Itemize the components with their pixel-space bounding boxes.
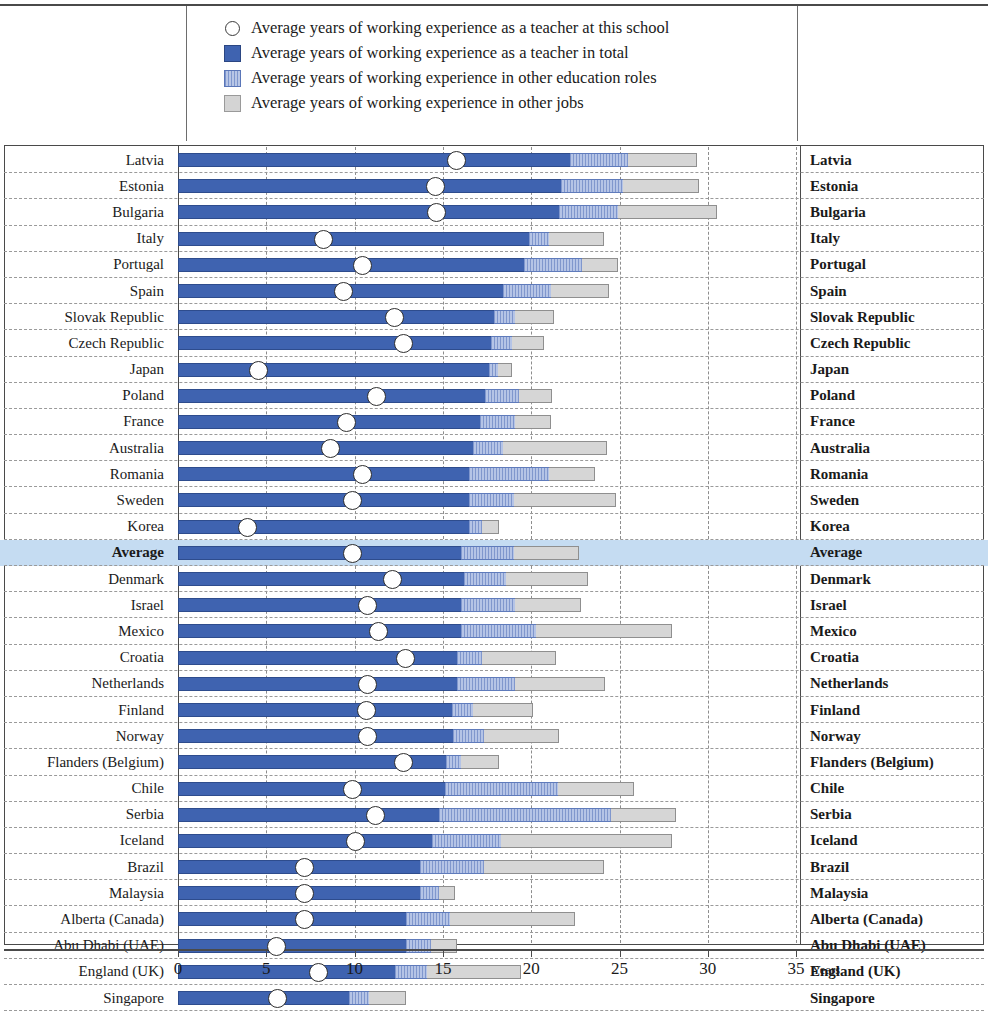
country-label-left: Poland <box>0 383 170 409</box>
marker-years-at-this-school <box>346 832 365 851</box>
bar-segment-other-jobs <box>484 729 560 743</box>
legend-item-label: Average years of working experience as a… <box>251 20 669 37</box>
bar-segment-other-jobs <box>536 624 672 638</box>
country-label-right: Portugal <box>810 252 866 278</box>
country-label-left: Flanders (Belgium) <box>0 749 170 775</box>
bar-segment-teacher-total <box>178 546 461 560</box>
country-label-left: Japan <box>0 357 170 383</box>
bar-segment-other-jobs <box>512 336 544 350</box>
axis-tick-label: 0 <box>174 959 183 979</box>
bar-area <box>178 461 800 487</box>
chart-row: KoreaKorea <box>0 514 988 540</box>
country-label-left: Mexico <box>0 618 170 644</box>
axis-tick <box>620 949 621 957</box>
country-label-right: Slovak Republic <box>810 304 915 330</box>
chart-row: ItalyItaly <box>0 226 988 252</box>
axis-tick <box>796 949 797 957</box>
bar-area <box>178 304 800 330</box>
bar-segment-other-education-roles <box>503 284 551 298</box>
legend-left-divider <box>186 6 187 141</box>
bar-segment-other-jobs <box>484 860 604 874</box>
legend-item-label: Average years of working experience in o… <box>251 70 657 87</box>
bar-segment-other-jobs <box>549 467 595 481</box>
bar-segment-teacher-total <box>178 232 529 246</box>
country-label-left: Sweden <box>0 487 170 513</box>
marker-years-at-this-school <box>385 308 404 327</box>
marker-years-at-this-school <box>366 806 385 825</box>
chart-row: PortugalPortugal <box>0 252 988 278</box>
bar-segment-other-education-roles <box>452 703 473 717</box>
country-label-right: Average <box>810 540 862 566</box>
country-label-right: Flanders (Belgium) <box>810 749 934 775</box>
country-label-left: Norway <box>0 723 170 749</box>
bar-segment-other-jobs <box>549 232 604 246</box>
country-label-right: Finland <box>810 697 860 723</box>
bar-segment-other-jobs <box>611 808 676 822</box>
bar-segment-teacher-total <box>178 520 469 534</box>
bar-segment-other-education-roles <box>469 493 513 507</box>
country-label-right: Spain <box>810 278 847 304</box>
bar-segment-teacher-total <box>178 598 461 612</box>
bar-segment-other-jobs <box>582 258 617 272</box>
bar-area <box>178 566 800 592</box>
marker-years-at-this-school <box>334 282 353 301</box>
x-axis-unit-label: Years <box>812 963 840 978</box>
bar-segment-other-education-roles <box>446 755 460 769</box>
legend-item-label: Average years of working experience in o… <box>251 95 584 112</box>
country-label-right: Japan <box>810 357 849 383</box>
bar-segment-teacher-total <box>178 729 453 743</box>
chart-row: IsraelIsrael <box>0 592 988 618</box>
chart-row: DenmarkDenmark <box>0 566 988 592</box>
marker-years-at-this-school <box>394 753 413 772</box>
chart-row: FranceFrance <box>0 409 988 435</box>
bar-segment-teacher-total <box>178 205 559 219</box>
bar-segment-other-jobs <box>558 782 634 796</box>
bar-segment-other-jobs <box>506 572 587 586</box>
bar-segment-other-education-roles <box>524 258 582 272</box>
country-label-left: Denmark <box>0 566 170 592</box>
chart-row: Slovak RepublicSlovak Republic <box>0 304 988 330</box>
country-label-right: Estonia <box>810 173 858 199</box>
country-label-right: Iceland <box>810 828 858 854</box>
bar-area <box>178 697 800 723</box>
country-label-right: Norway <box>810 723 861 749</box>
x-axis: 05101520253035 Years <box>0 945 988 981</box>
bar-segment-teacher-total <box>178 179 561 193</box>
country-label-left: Chile <box>0 776 170 802</box>
bar-segment-other-education-roles <box>491 336 512 350</box>
bar-area <box>178 749 800 775</box>
country-label-right: Brazil <box>810 854 849 880</box>
bar-segment-other-education-roles <box>561 179 623 193</box>
bar-segment-teacher-total <box>178 467 469 481</box>
bar-segment-other-jobs <box>628 153 697 167</box>
legend-item: Average years of working experience in o… <box>224 91 669 116</box>
bar-segment-other-education-roles <box>439 808 610 822</box>
country-label-right: Israel <box>810 592 847 618</box>
x-axis-line <box>4 949 984 951</box>
bar-area <box>178 383 800 409</box>
country-label-right: Netherlands <box>810 671 888 697</box>
country-label-right: Poland <box>810 383 855 409</box>
axis-tick <box>443 949 444 957</box>
legend-top-rule <box>0 4 988 6</box>
bar-segment-teacher-total <box>178 991 349 1005</box>
country-label-right: Singapore <box>810 985 875 1011</box>
chart-row: ChileChile <box>0 776 988 802</box>
bar-area <box>178 357 800 383</box>
marker-years-at-this-school <box>321 439 340 458</box>
chart-row: SwedenSweden <box>0 487 988 513</box>
country-label-left: Bulgaria <box>0 199 170 225</box>
bar-segment-other-jobs <box>461 755 500 769</box>
marker-years-at-this-school <box>343 491 362 510</box>
country-label-left: Croatia <box>0 645 170 671</box>
country-label-right: Chile <box>810 776 844 802</box>
bar-segment-other-jobs <box>514 493 616 507</box>
bar-segment-other-education-roles <box>461 598 516 612</box>
chart-row: Alberta (Canada)Alberta (Canada) <box>0 906 988 932</box>
bar-segment-teacher-total <box>178 415 480 429</box>
axis-tick-label: 25 <box>611 959 628 979</box>
country-label-left: Slovak Republic <box>0 304 170 330</box>
country-label-left: Italy <box>0 226 170 252</box>
bar-segment-other-education-roles <box>453 729 483 743</box>
